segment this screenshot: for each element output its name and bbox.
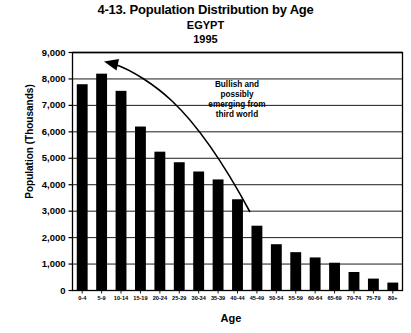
- bar: [232, 199, 243, 290]
- bar: [251, 226, 262, 291]
- bar: [290, 252, 301, 290]
- bar: [96, 74, 107, 291]
- bar: [135, 127, 146, 291]
- bar: [116, 91, 127, 291]
- annotation-line-4: third world: [182, 110, 292, 120]
- bar: [213, 179, 224, 290]
- bar: [193, 172, 204, 291]
- bar: [329, 263, 340, 291]
- annotation-line-2: possibly: [182, 90, 292, 100]
- bar: [387, 283, 398, 291]
- bar: [174, 162, 185, 290]
- plot-area: [0, 0, 411, 333]
- bar: [271, 244, 282, 290]
- annotation-text: Bullish and possibly emerging from third…: [182, 80, 292, 120]
- bar: [310, 257, 321, 290]
- annotation-line-1: Bullish and: [182, 80, 292, 90]
- bar: [368, 279, 379, 291]
- annotation-line-3: emerging from: [182, 100, 292, 110]
- bar: [77, 84, 88, 290]
- bar: [349, 272, 360, 291]
- bar: [154, 152, 165, 291]
- chart-figure: 4-13. Population Distribution by Age EGY…: [0, 0, 411, 333]
